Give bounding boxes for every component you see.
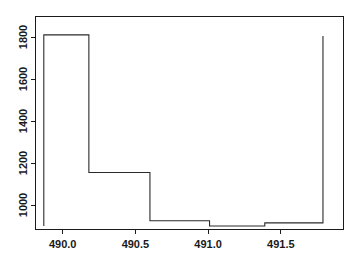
x-tick-label-3: 491.5 xyxy=(267,238,295,250)
x-tick-label-2: 491.0 xyxy=(194,238,222,250)
step-plot-svg: 490.0490.5491.0491.5 1000120014001600180… xyxy=(0,0,352,263)
y-tick-label-2: 1400 xyxy=(17,109,29,133)
y-tick-label-1: 1200 xyxy=(17,151,29,175)
chart-container: 490.0490.5491.0491.5 1000120014001600180… xyxy=(0,0,352,263)
x-tick-label-0: 490.0 xyxy=(49,238,77,250)
plot-background xyxy=(0,0,352,263)
y-tick-label-3: 1600 xyxy=(17,67,29,91)
x-tick-label-1: 490.5 xyxy=(122,238,150,250)
y-tick-label-4: 1800 xyxy=(17,25,29,49)
y-tick-label-0: 1000 xyxy=(17,193,29,217)
